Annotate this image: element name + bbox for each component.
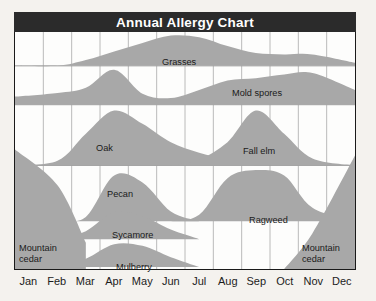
band-label-mold-spores: Mold spores [232, 88, 282, 99]
band-label-mountain-cedar-left: Mountain cedar [19, 243, 71, 264]
month-axis: Jan Feb Mar Apr May Jun Jul Aug Sep Oct … [14, 272, 356, 294]
band-label-mountain-cedar-right: Mountain cedar [302, 243, 354, 264]
month-label-sep: Sep [242, 272, 271, 294]
allergy-chart: Annual Allergy Chart Grasses Mold spores… [0, 0, 376, 301]
month-label-jan: Jan [14, 272, 43, 294]
month-label-apr: Apr [100, 272, 129, 294]
month-label-jul: Jul [185, 272, 214, 294]
month-label-oct: Oct [271, 272, 300, 294]
month-label-mar: Mar [71, 272, 100, 294]
band-label-ragweed: Ragweed [249, 215, 288, 226]
band-label-oak: Oak [96, 143, 113, 154]
band-label-sycamore: Sycamore [112, 230, 153, 241]
band-label-fall-elm: Fall elm [243, 146, 275, 157]
band-label-pecan: Pecan [107, 189, 133, 200]
band-label-mulberry: Mulberry [116, 262, 152, 273]
plot-area [14, 32, 356, 270]
month-label-feb: Feb [43, 272, 72, 294]
chart-title: Annual Allergy Chart [116, 15, 254, 30]
band-label-grasses: Grasses [162, 57, 196, 68]
allergy-bands-svg [15, 32, 355, 269]
month-label-may: May [128, 272, 157, 294]
month-label-aug: Aug [214, 272, 243, 294]
month-label-jun: Jun [157, 272, 186, 294]
month-label-nov: Nov [299, 272, 328, 294]
month-label-dec: Dec [328, 272, 357, 294]
chart-title-bar: Annual Allergy Chart [14, 12, 356, 32]
